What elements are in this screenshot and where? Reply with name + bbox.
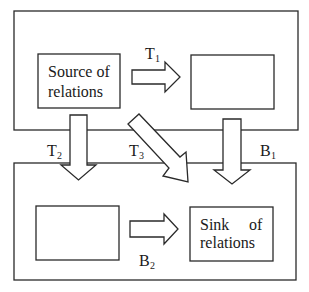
source-box-line2: relations [48,83,103,100]
source-box-line1: Source of [48,63,110,80]
sink-box-line1-of: of [249,216,263,233]
label-B1: B 1 [260,142,276,161]
lower-empty-box [36,206,119,260]
relations-flow-diagram: Source of relations Sink of relations T … [0,0,309,292]
svg-text:1: 1 [155,53,160,64]
sink-box-line1-sink: Sink [200,216,229,233]
label-T3: T 3 [129,142,144,161]
label-T2: T 2 [47,142,62,161]
svg-text:T: T [129,142,139,159]
svg-text:T: T [47,142,57,159]
svg-text:B: B [139,252,150,269]
upper-empty-box [191,55,274,109]
svg-text:2: 2 [57,150,62,161]
svg-text:1: 1 [271,150,276,161]
svg-text:3: 3 [139,150,144,161]
svg-text:2: 2 [150,260,155,271]
sink-box-line2: relations [200,234,255,251]
svg-text:B: B [260,142,271,159]
svg-text:T: T [145,45,155,62]
